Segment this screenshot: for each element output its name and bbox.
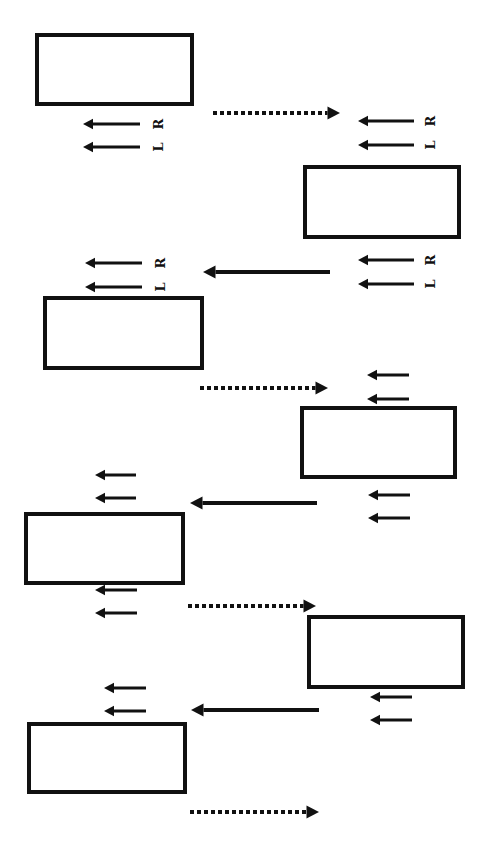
arrow-pair: RL bbox=[83, 118, 166, 152]
arrow-pair bbox=[104, 683, 146, 716]
label-l: L bbox=[151, 142, 166, 151]
dotted-right-arrow bbox=[190, 806, 319, 819]
solid-left-arrow bbox=[203, 266, 330, 279]
dotted-right-arrow bbox=[213, 107, 340, 120]
left-arrowhead-icon bbox=[95, 608, 105, 618]
arrowhead-icon bbox=[190, 497, 203, 510]
left-arrowhead-icon bbox=[367, 370, 377, 380]
diagram-canvas: RLRLRLRL bbox=[0, 0, 492, 860]
arrow-pair: RL bbox=[358, 254, 438, 289]
dotted-right-arrow bbox=[200, 382, 328, 395]
arrow-pair bbox=[95, 470, 136, 503]
left-arrowhead-icon bbox=[368, 490, 378, 500]
label-l: L bbox=[423, 140, 438, 149]
left-arrowhead-icon bbox=[83, 142, 93, 152]
label-r: R bbox=[151, 118, 166, 129]
arrow-pair: RL bbox=[358, 115, 438, 150]
label-r: R bbox=[423, 115, 438, 126]
left-arrowhead-icon bbox=[104, 683, 114, 693]
label-r: R bbox=[153, 257, 168, 268]
arrow-pair bbox=[367, 370, 409, 404]
arrow-pair bbox=[95, 585, 137, 618]
solid-left-arrow bbox=[191, 704, 319, 717]
left-arrowhead-icon bbox=[95, 493, 105, 503]
label-l: L bbox=[423, 279, 438, 288]
label-r: R bbox=[423, 254, 438, 265]
arrowhead-icon bbox=[328, 107, 341, 120]
arrow-pair bbox=[370, 692, 412, 725]
arrowhead-icon bbox=[307, 806, 320, 819]
arrow-pair bbox=[368, 490, 410, 523]
step-box bbox=[309, 617, 463, 687]
left-arrowhead-icon bbox=[368, 513, 378, 523]
label-l: L bbox=[153, 282, 168, 291]
left-arrowhead-icon bbox=[358, 140, 368, 150]
solid-left-arrow bbox=[190, 497, 317, 510]
left-arrowhead-icon bbox=[95, 585, 105, 595]
step-box bbox=[302, 408, 455, 477]
left-arrowhead-icon bbox=[95, 470, 105, 480]
left-arrowhead-icon bbox=[370, 715, 380, 725]
arrow-pair: RL bbox=[85, 257, 168, 292]
step-box bbox=[29, 724, 185, 792]
left-arrowhead-icon bbox=[370, 692, 380, 702]
arrowhead-icon bbox=[304, 600, 317, 613]
step-box bbox=[26, 514, 183, 583]
left-arrowhead-icon bbox=[83, 119, 93, 129]
left-arrowhead-icon bbox=[358, 116, 368, 126]
arrowhead-icon bbox=[191, 704, 204, 717]
dotted-right-arrow bbox=[188, 600, 316, 613]
left-arrowhead-icon bbox=[104, 706, 114, 716]
step-box bbox=[45, 298, 202, 368]
step-box bbox=[305, 167, 459, 237]
step-box bbox=[37, 35, 192, 104]
left-arrowhead-icon bbox=[358, 279, 368, 289]
arrowhead-icon bbox=[316, 382, 329, 395]
arrowhead-icon bbox=[203, 266, 216, 279]
left-arrowhead-icon bbox=[358, 255, 368, 265]
left-arrowhead-icon bbox=[85, 282, 95, 292]
left-arrowhead-icon bbox=[85, 258, 95, 268]
left-arrowhead-icon bbox=[367, 394, 377, 404]
